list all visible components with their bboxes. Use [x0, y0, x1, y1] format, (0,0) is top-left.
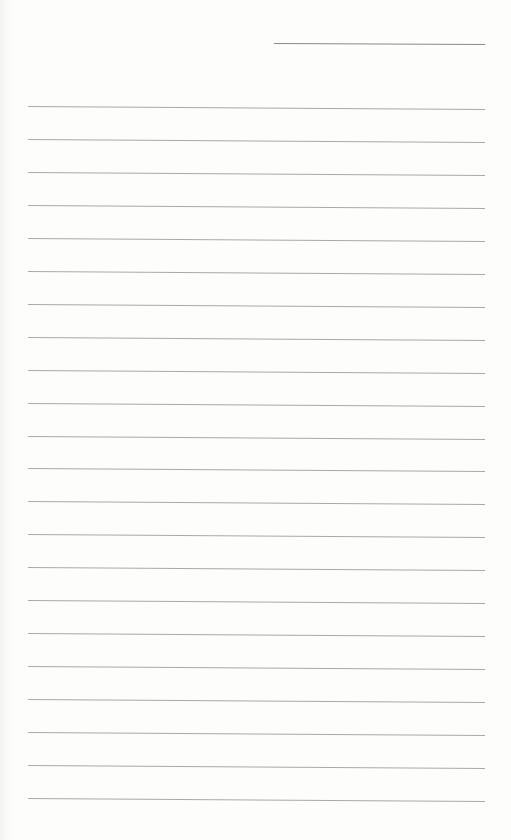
ruled-line — [28, 205, 485, 209]
ruled-line — [28, 798, 485, 802]
ruled-line — [28, 765, 485, 769]
ruled-line — [28, 238, 485, 242]
ruled-line — [28, 732, 485, 736]
lined-paper-page — [0, 0, 511, 840]
ruled-line — [28, 699, 485, 703]
ruled-line — [28, 337, 485, 341]
ruled-line — [28, 633, 485, 637]
ruled-line — [28, 304, 485, 308]
header-blank-line — [274, 43, 485, 45]
ruled-line — [28, 534, 485, 538]
ruled-line — [28, 370, 485, 374]
ruled-line — [28, 468, 485, 472]
ruled-line — [28, 666, 485, 670]
ruled-line — [28, 139, 485, 143]
ruled-line — [28, 436, 485, 440]
ruled-line — [28, 567, 485, 571]
ruled-line — [28, 271, 485, 275]
ruled-line — [28, 403, 485, 407]
ruled-line — [28, 600, 485, 604]
ruled-line — [28, 172, 485, 176]
ruled-line — [28, 106, 485, 110]
ruled-line — [28, 501, 485, 505]
